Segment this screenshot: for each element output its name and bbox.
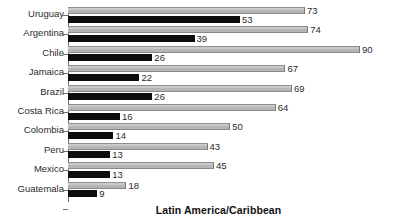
bar-group: Brazil6926: [0, 85, 393, 104]
category-label: Guatemala: [0, 183, 64, 194]
bar-light: [68, 123, 230, 130]
category-label: Argentina: [0, 27, 64, 38]
bar-value-label: 73: [307, 5, 318, 16]
bar-value-label: 90: [362, 44, 373, 55]
bar-group: Guatemala189: [0, 182, 393, 201]
bar-value-label: 45: [216, 160, 227, 171]
bar-dark: [68, 113, 120, 120]
bar-light: [68, 182, 126, 189]
bar-group: Peru4313: [0, 143, 393, 162]
bar-dark: [68, 151, 110, 158]
category-label: Jamaica: [0, 66, 64, 77]
bar-group: Uruguay7353: [0, 7, 393, 26]
bar-value-label: 67: [287, 63, 298, 74]
bar-dark: [68, 190, 97, 197]
bar-light: [68, 7, 305, 14]
bar-value-label: 64: [278, 102, 289, 113]
axis-tick: [63, 190, 68, 191]
bar-dark: [68, 74, 139, 81]
axis-tick: [63, 170, 68, 171]
bar-value-label: 14: [115, 130, 126, 141]
bar-value-label: 53: [242, 14, 253, 25]
bar-group: Colombia5014: [0, 123, 393, 142]
axis-tick: [63, 34, 68, 35]
bar-value-label: 22: [141, 72, 152, 83]
bar-value-label: 43: [210, 141, 221, 152]
bar-light: [68, 26, 308, 33]
bar-group: Costa Rica6416: [0, 104, 393, 123]
bar-dark: [68, 35, 195, 42]
bar-light: [68, 46, 360, 53]
category-label: Peru: [0, 144, 64, 155]
bar-dark: [68, 171, 110, 178]
bar-light: [68, 104, 276, 111]
bar-dark: [68, 54, 152, 61]
bar-dark: [68, 93, 152, 100]
bar-value-label: 39: [197, 33, 208, 44]
category-label: Mexico: [0, 163, 64, 174]
bar-dark: [68, 16, 240, 23]
bar-group: Argentina7439: [0, 26, 393, 45]
bar-value-label: 50: [232, 121, 243, 132]
axis-tick: [63, 73, 68, 74]
bar-group: Mexico4513: [0, 162, 393, 181]
bar-light: [68, 162, 214, 169]
bar-value-label: 69: [294, 83, 305, 94]
chart-footer-title: Latin America/Caribbean: [0, 204, 393, 216]
axis-tick: [63, 15, 68, 16]
horizontal-bar-chart: Uruguay7353Argentina7439Chile9026Jamaica…: [0, 0, 393, 221]
bar-group: Chile9026: [0, 46, 393, 65]
bar-value-label: 74: [310, 24, 321, 35]
axis-tick: [63, 54, 68, 55]
bar-value-label: 13: [112, 169, 123, 180]
plot-area: Uruguay7353Argentina7439Chile9026Jamaica…: [0, 0, 393, 205]
bar-light: [68, 85, 292, 92]
bar-value-label: 16: [122, 111, 133, 122]
category-label: Colombia: [0, 124, 64, 135]
category-label: Uruguay: [0, 8, 64, 19]
category-label: Costa Rica: [0, 105, 64, 116]
category-label: Brazil: [0, 86, 64, 97]
bar-value-label: 13: [112, 149, 123, 160]
axis-tick: [63, 93, 68, 94]
axis-tick: [63, 131, 68, 132]
bar-value-label: 26: [154, 91, 165, 102]
category-label: Chile: [0, 47, 64, 58]
bar-value-label: 9: [99, 188, 104, 199]
bar-value-label: 26: [154, 52, 165, 63]
bar-group: Jamaica6722: [0, 65, 393, 84]
axis-tick: [63, 112, 68, 113]
axis-tick: [63, 151, 68, 152]
bar-light: [68, 143, 208, 150]
bar-light: [68, 65, 285, 72]
bar-value-label: 18: [128, 180, 139, 191]
bar-dark: [68, 132, 113, 139]
